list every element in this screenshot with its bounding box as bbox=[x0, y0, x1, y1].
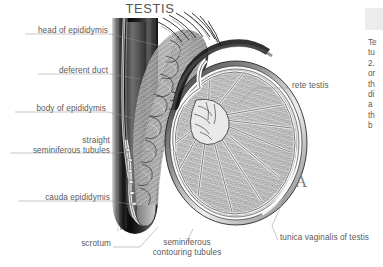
label-seminiferous-line2: contouring tubules bbox=[148, 248, 226, 258]
label-head-of-epididymis: head of epididymis bbox=[0, 26, 108, 36]
side-text-column: Tetu2.orthdiathb bbox=[368, 38, 383, 132]
side-text-header-box bbox=[365, 8, 383, 30]
label-body-of-epididymis: body of epididymis bbox=[0, 104, 106, 114]
label-seminiferous-contouring-tubules: seminiferous contouring tubules bbox=[148, 238, 226, 257]
side-text-line-8: b bbox=[368, 121, 383, 131]
label-straight-line1: straight bbox=[0, 136, 110, 146]
leader-lines bbox=[0, 0, 383, 267]
side-text-line-4: th bbox=[368, 80, 383, 90]
side-text-line-0: Te bbox=[368, 38, 383, 48]
side-text-line-3: or bbox=[368, 69, 383, 79]
label-tunica-vaginalis-of-testis: tunica vaginalis of testis bbox=[280, 233, 369, 243]
leader-rete-testis bbox=[238, 88, 289, 104]
side-text-line-6: a bbox=[368, 100, 383, 110]
label-scrotum: scrotum bbox=[0, 239, 111, 249]
label-straight-seminiferous-tubules: straight seminiferous tubules bbox=[0, 136, 110, 155]
label-seminiferous-line1: seminiferous bbox=[148, 238, 226, 248]
page-title: TESTIS bbox=[0, 1, 300, 16]
side-text-line-7: th bbox=[368, 111, 383, 121]
leader-head-of-epididymis bbox=[25, 34, 160, 46]
label-rete-testis: rete testis bbox=[292, 81, 329, 91]
label-cauda-epididymis: cauda epididymis bbox=[0, 193, 110, 203]
side-text-line-2: 2. bbox=[368, 59, 383, 69]
label-straight-line2: seminiferous tubules bbox=[0, 146, 110, 156]
illustration-root: TESTIS head of epididymis deferent duct … bbox=[0, 0, 383, 267]
label-deferent-duct: deferent duct bbox=[0, 66, 108, 76]
side-text-line-1: tu bbox=[368, 48, 383, 58]
side-text-line-5: di bbox=[368, 90, 383, 100]
figure-panel-marker: A bbox=[295, 172, 307, 192]
